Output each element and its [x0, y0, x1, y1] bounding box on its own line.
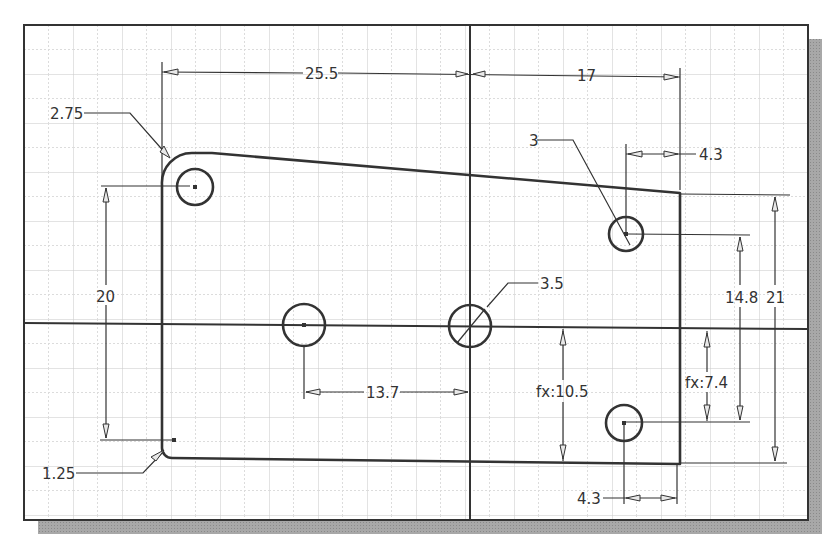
- dim-label-21[interactable]: 21: [766, 289, 785, 307]
- dim-label-fx-10.5[interactable]: fx:10.5: [536, 383, 589, 401]
- sketch-grid: [24, 25, 808, 520]
- dim-label-fx-7.4[interactable]: fx:7.4: [685, 374, 728, 392]
- dim-label-3.5[interactable]: 3.5: [540, 275, 564, 293]
- dim-label-13.7[interactable]: 13.7: [366, 384, 399, 402]
- dim-label-20[interactable]: 20: [96, 288, 115, 306]
- dim-label-4.3-bottom[interactable]: 4.3: [577, 490, 601, 508]
- dim-label-3[interactable]: 3: [529, 132, 539, 150]
- dim-label-2.75[interactable]: 2.75: [50, 105, 83, 123]
- dim-label-1.25[interactable]: 1.25: [42, 465, 75, 483]
- sketch-canvas[interactable]: 25.5 17 2.75 3 4.3 20 3.5: [0, 0, 832, 553]
- dim-label-4.3-top[interactable]: 4.3: [699, 146, 723, 164]
- dim-label-25.5[interactable]: 25.5: [305, 65, 338, 83]
- dim-label-17[interactable]: 17: [577, 67, 596, 85]
- dim-label-14.8[interactable]: 14.8: [725, 289, 758, 307]
